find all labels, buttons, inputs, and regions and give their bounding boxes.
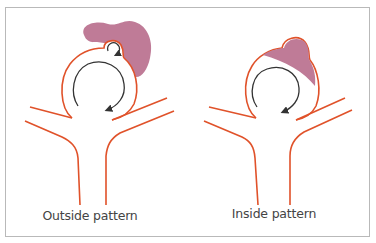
outside-pattern-panel	[25, 21, 174, 205]
aneurysm-flow-diagram	[0, 0, 376, 243]
outside-left-branch	[25, 107, 80, 205]
inside-pattern-label: Inside pattern	[232, 206, 316, 221]
outside-pattern-label: Outside pattern	[42, 208, 137, 223]
inside-left-branch	[204, 107, 258, 205]
inside-pattern-panel	[204, 38, 352, 205]
